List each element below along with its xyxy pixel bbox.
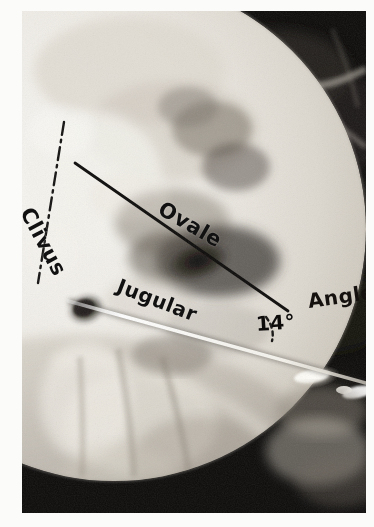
radiograph-image [22,11,366,513]
figure-page: Clivus Ovale Jugular Angle 14° [0,0,374,527]
radiograph-plate: Clivus Ovale Jugular Angle 14° [22,11,366,513]
film-grain [22,11,366,513]
